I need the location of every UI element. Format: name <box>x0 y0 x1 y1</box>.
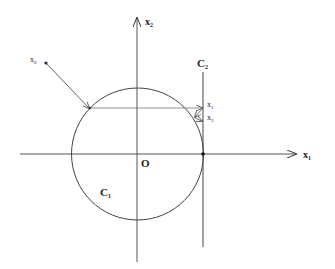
label-c1: C1 <box>100 186 111 199</box>
label-c2: C2 <box>197 57 208 70</box>
label-x2-point: x2 <box>207 113 214 123</box>
projection-diagram: x0 x1 x2 x2 x1 C2 C1 O <box>0 0 335 269</box>
label-origin: O <box>141 157 150 169</box>
projection-x0 <box>46 63 89 108</box>
label-x1-axis: x1 <box>303 149 311 161</box>
label-x1-point: x1 <box>207 100 214 110</box>
label-x0: x0 <box>30 55 37 65</box>
projection-x1-to-c1 <box>195 109 202 117</box>
label-x2-axis: x2 <box>145 16 153 28</box>
projection-c1-to-x2 <box>195 118 202 121</box>
intersection-point <box>201 152 205 156</box>
